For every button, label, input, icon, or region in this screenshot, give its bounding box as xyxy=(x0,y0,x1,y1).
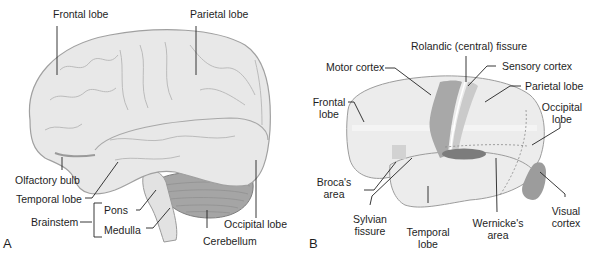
label-frontal-lobe-b-line2: lobe xyxy=(307,108,351,120)
wernickes-area-region xyxy=(442,149,486,160)
label-parietal-lobe-a: Parietal lobe xyxy=(190,8,248,20)
label-brainstem: Brainstem xyxy=(31,216,78,228)
label-temporal-lobe-b-line2: lobe xyxy=(402,238,454,250)
label-visual-cortex-line1: Visual xyxy=(545,205,587,217)
label-rolandic-fissure: Rolandic (central) fissure xyxy=(411,40,527,52)
label-olfactory-bulb: Olfactory bulb xyxy=(15,174,80,186)
label-sensory-cortex: Sensory cortex xyxy=(502,60,572,72)
label-sylvian-fissure-line1: Sylvian xyxy=(348,213,392,225)
label-sylvian-fissure: Sylvian fissure xyxy=(348,213,392,237)
label-frontal-lobe-b: Frontal lobe xyxy=(307,96,351,120)
label-occipital-lobe-b-line2: lobe xyxy=(538,113,586,125)
label-brocas-area-line1: Broca's xyxy=(312,176,356,188)
label-visual-cortex-line2: cortex xyxy=(545,217,587,229)
label-wernickes-area: Wernicke's area xyxy=(468,217,528,241)
label-brocas-area: Broca's area xyxy=(312,176,356,200)
label-temporal-lobe-b-line1: Temporal xyxy=(402,226,454,238)
label-motor-cortex: Motor cortex xyxy=(326,61,384,73)
label-parietal-lobe-b: Parietal lobe xyxy=(525,80,583,92)
panel-letter-b: B xyxy=(309,236,318,251)
cerebrum-shape xyxy=(29,30,270,194)
label-wernickes-area-line1: Wernicke's xyxy=(468,217,528,229)
label-occipital-lobe-b: Occipital lobe xyxy=(538,101,586,125)
label-medulla: Medulla xyxy=(104,224,141,236)
panel-a-brain-illustration xyxy=(29,30,270,242)
label-wernickes-area-line2: area xyxy=(468,229,528,241)
label-occipital-lobe-b-line1: Occipital xyxy=(538,101,586,113)
brocas-area-region xyxy=(392,145,406,159)
label-visual-cortex: Visual cortex xyxy=(545,205,587,229)
panel-letter-a: A xyxy=(3,236,12,251)
label-sylvian-fissure-line2: fissure xyxy=(348,225,392,237)
label-frontal-lobe-a: Frontal lobe xyxy=(53,8,108,20)
label-temporal-lobe-a: Temporal lobe xyxy=(16,193,82,205)
label-temporal-lobe-b: Temporal lobe xyxy=(402,226,454,250)
label-frontal-lobe-b-line1: Frontal xyxy=(307,96,351,108)
label-cerebellum: Cerebellum xyxy=(203,235,257,247)
label-occipital-lobe-a: Occipital lobe xyxy=(224,218,287,230)
label-brocas-area-line2: area xyxy=(312,188,356,200)
label-pons: Pons xyxy=(104,204,128,216)
